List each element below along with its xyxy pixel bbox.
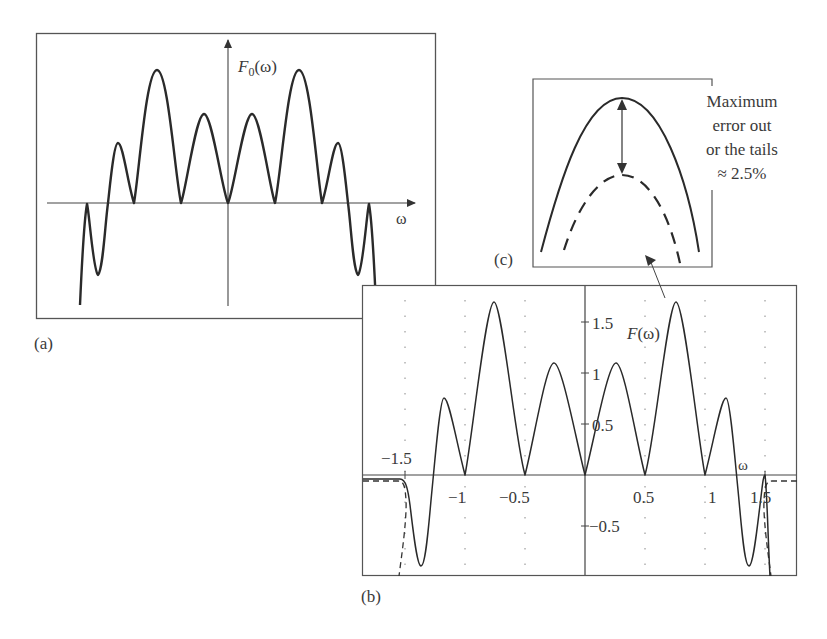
- panel-b-ylabel: F(ω): [626, 324, 660, 343]
- panel-b-xtick-neg1.5: −1.5: [381, 449, 412, 468]
- note-line-3: or the tails: [672, 138, 812, 162]
- panel-b-xlabel: ω: [738, 457, 748, 473]
- panel-b-xtick-1.5: 1.5: [750, 488, 771, 507]
- panel-b-ytick-1: 1: [592, 365, 601, 384]
- panel-b-ytick-neg0.5: −0.5: [589, 517, 620, 536]
- panel-b-xtick-neg1: −1: [448, 488, 466, 507]
- panel-a-ylabel: F0(ω): [237, 57, 277, 79]
- panel-b-xtick-0.5: 0.5: [633, 488, 654, 507]
- panel-c-arrowhead-up: [617, 99, 627, 110]
- panel-c-label: (c): [494, 250, 513, 270]
- panel-b-ytick-1.5: 1.5: [592, 314, 613, 333]
- panel-a: [37, 34, 436, 319]
- panel-c-arrowhead-down: [617, 163, 627, 174]
- panel-b-xtick-neg0.5: −0.5: [499, 488, 530, 507]
- note-line-1: Maximum: [672, 90, 812, 114]
- panel-b-ytick-0.5: 0.5: [592, 416, 613, 435]
- zoom-leader-arrowhead: [645, 255, 656, 266]
- panel-a-label: (a): [34, 334, 53, 354]
- note-line-4: ≈ 2.5%: [672, 162, 812, 186]
- panel-b-ylabel-arg: (ω): [637, 324, 660, 343]
- panel-b-label: (b): [361, 587, 381, 607]
- note-line-2: error out: [672, 114, 812, 138]
- panel-b: [363, 286, 798, 577]
- panel-c-note: Maximum error out or the tails ≈ 2.5%: [672, 90, 812, 186]
- panel-c-approx-peak: [564, 175, 681, 268]
- panel-b-xtick-1: 1: [708, 488, 717, 507]
- panel-a-xlabel: ω: [396, 210, 407, 227]
